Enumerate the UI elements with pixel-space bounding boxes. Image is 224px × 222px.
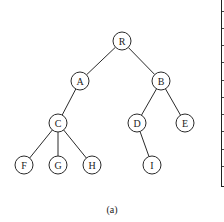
edge-R-A	[87, 47, 116, 75]
node-I: I	[143, 156, 161, 174]
table-row-divider	[222, 97, 224, 98]
node-label: G	[54, 160, 61, 171]
edge-D-I	[140, 131, 149, 156]
edge-R-B	[128, 47, 154, 74]
tree-nodes: RABCDEFGHI	[15, 32, 194, 174]
table-row-divider	[222, 166, 224, 167]
table-row-divider	[222, 114, 224, 115]
edge-A-C	[62, 89, 76, 115]
table-row-divider	[222, 11, 224, 12]
node-label: F	[21, 160, 27, 171]
node-C: C	[49, 114, 67, 132]
node-D: D	[128, 114, 146, 132]
node-label: I	[150, 160, 153, 171]
edge-C-H	[64, 130, 87, 158]
node-label: C	[55, 118, 62, 129]
node-label: H	[88, 160, 95, 171]
node-F: F	[15, 156, 33, 174]
table-bottom-border	[222, 186, 224, 187]
node-label: E	[182, 118, 188, 129]
table-row-divider	[222, 80, 224, 81]
node-label: D	[133, 118, 140, 129]
edge-C-F	[30, 130, 53, 158]
node-label: B	[158, 76, 165, 87]
table-row-divider	[222, 28, 224, 29]
table-row-divider	[222, 62, 224, 63]
node-B: B	[152, 72, 170, 90]
edge-B-D	[141, 89, 156, 115]
partial-table-edge	[221, 0, 224, 187]
node-G: G	[49, 156, 67, 174]
node-E: E	[176, 114, 194, 132]
tree-edges	[30, 47, 181, 158]
node-label: A	[76, 76, 84, 87]
figure-caption: (a)	[0, 204, 224, 215]
table-row-divider	[222, 149, 224, 150]
edge-B-E	[165, 89, 180, 115]
table-row-divider	[222, 45, 224, 46]
tree-diagram: RABCDEFGHI	[0, 0, 224, 222]
node-label: R	[119, 36, 126, 47]
node-A: A	[71, 72, 89, 90]
node-R: R	[113, 32, 131, 50]
table-row-divider	[222, 131, 224, 132]
node-H: H	[83, 156, 101, 174]
